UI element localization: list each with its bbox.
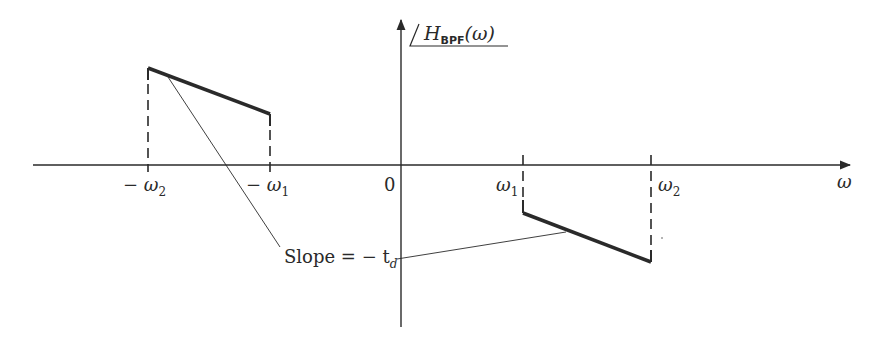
tick-label-neg-w2: − ω2	[123, 174, 166, 199]
leader-line-neg	[168, 77, 280, 247]
tick-label-pos-w2: ω2	[658, 174, 680, 199]
plot-title: HBPF(ω)	[423, 22, 495, 47]
tick-label-pos-w1: ω1	[496, 174, 518, 199]
x-axis-label: ω	[837, 171, 852, 192]
origin-label: 0	[384, 174, 395, 195]
leader-line-pos	[397, 232, 566, 259]
phase-response-diagram: HBPF(ω) − ω2 − ω1 0 ω1 ω2 ω Slope = − td	[0, 0, 883, 343]
slope-annotation: Slope = − td	[284, 246, 398, 271]
phase-segment-positive	[523, 213, 651, 262]
tick-label-neg-w1: − ω1	[246, 174, 289, 199]
phase-segment-negative	[148, 68, 270, 114]
